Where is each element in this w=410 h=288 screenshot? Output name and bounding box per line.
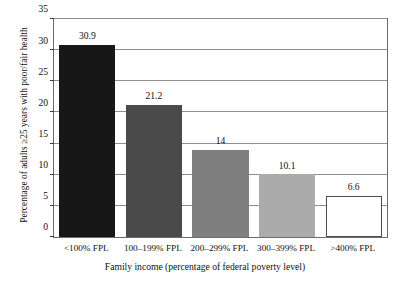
y-axis-tick-label: 30 xyxy=(24,36,48,46)
bar[interactable] xyxy=(59,45,115,237)
y-axis-tick-label: 35 xyxy=(24,5,48,15)
x-axis-title: Family income (percentage of federal pov… xyxy=(0,261,410,272)
bar-value-label: 21.2 xyxy=(126,91,182,101)
bar[interactable] xyxy=(259,174,315,237)
y-axis-tick-label: 25 xyxy=(24,67,48,77)
bar-value-label: 6.6 xyxy=(326,182,382,192)
bar-slot[interactable]: 14 xyxy=(192,19,248,237)
bar[interactable] xyxy=(192,150,248,237)
bar-slot[interactable]: 6.6 xyxy=(326,19,382,237)
bar-slot[interactable]: 21.2 xyxy=(126,19,182,237)
bar-value-label: 10.1 xyxy=(259,161,315,171)
bar[interactable] xyxy=(326,196,382,237)
y-axis-tick-label: 5 xyxy=(24,191,48,201)
y-axis-tick-label: 0 xyxy=(24,223,48,233)
bar-value-label: 14 xyxy=(192,136,248,146)
bar-value-label: 30.9 xyxy=(59,31,115,41)
y-axis-tick-label: 15 xyxy=(24,129,48,139)
y-axis-tick-label: 20 xyxy=(24,98,48,108)
bar-series: 30.921.21410.16.6 xyxy=(54,19,387,237)
y-axis-tick-label: 10 xyxy=(24,160,48,170)
bar-chart: Percentage of adults ≥25 years with poor… xyxy=(0,0,410,288)
bar[interactable] xyxy=(126,105,182,237)
x-axis-tick-label: >400% FPL xyxy=(313,244,393,253)
bar-slot[interactable]: 30.9 xyxy=(59,19,115,237)
bar-slot[interactable]: 10.1 xyxy=(259,19,315,237)
plot-area: 05101520253035 30.921.21410.16.6 xyxy=(53,18,388,238)
